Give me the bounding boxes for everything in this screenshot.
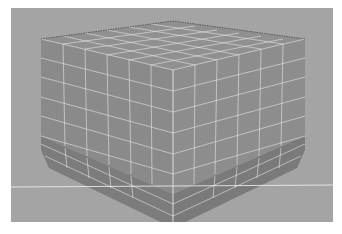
3d-viewport[interactable] [11,8,333,222]
cube-model[interactable] [11,8,333,222]
